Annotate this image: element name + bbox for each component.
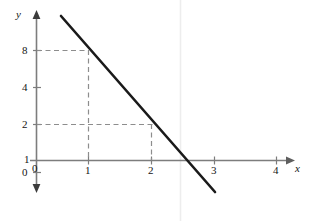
x-tick-label-4: 4 [273,165,279,176]
y-tick-label-1: 1 [24,154,30,165]
plot-canvas [0,0,318,221]
x-tick-label-0: 0 [32,163,38,174]
y-tick-label-8: 8 [22,45,28,56]
x-tick-label-3: 3 [211,165,217,176]
x-tick-label-1: 1 [85,165,91,176]
y-tick-label-2: 2 [22,119,28,130]
y-axis-arrowhead-up [33,10,41,19]
y-tick-label-0: 0 [22,167,28,178]
x-axis-arrowhead [286,157,295,165]
graph-figure: y 8 4 2 1 0 0 1 2 3 4 x [0,0,318,221]
y-axis-arrowhead-down [33,184,41,193]
y-axis-label: y [16,9,21,20]
y-tick-label-4: 4 [22,82,28,93]
x-tick-label-2: 2 [148,165,154,176]
x-axis-label: x [295,163,300,174]
